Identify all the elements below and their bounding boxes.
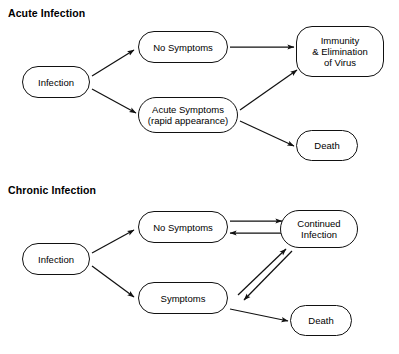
node-acute-no-symptoms[interactable]: No Symptoms [138,31,228,63]
node-acute-immunity-elimination-of-virus[interactable]: Immunity & Elimination of Virus [296,26,384,77]
node-chronic-infection[interactable]: Infection [22,243,90,275]
edge-acute-symptoms-to-immunity [240,70,297,110]
edge-acute-symptoms-to-death [240,121,294,146]
edge-chronic-continued-to-symptoms [244,251,292,300]
node-chronic-continued-infection[interactable]: Continued Infection [280,210,358,248]
node-chronic-symptoms[interactable]: Symptoms [138,282,228,314]
node-acute-infection[interactable]: Infection [22,66,90,98]
node-acute-symptoms[interactable]: Acute Symptoms (rapid appearance) [138,97,238,133]
edge-chronic-symptoms-to-continued [238,249,286,295]
node-chronic-death[interactable]: Death [290,305,352,336]
edge-acute-infection-to-nosymptoms [92,50,134,76]
edge-chronic-infection-to-nosymptoms [92,230,134,253]
edge-chronic-symptoms-to-death [230,309,288,321]
edge-acute-infection-to-symptoms [92,89,136,113]
diagram-canvas: Acute Infection Chronic Infection [0,0,399,354]
node-chronic-no-symptoms[interactable]: No Symptoms [138,211,228,243]
edge-chronic-infection-to-symptoms [92,266,134,297]
node-acute-death[interactable]: Death [296,130,358,161]
